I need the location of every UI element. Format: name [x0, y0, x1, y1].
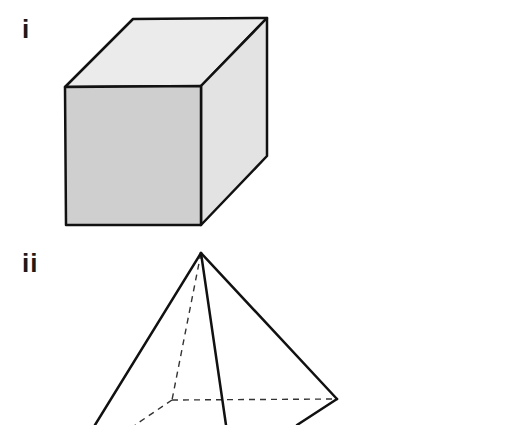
hidden-edge-left-base: [135, 400, 172, 425]
shapes-canvas: [0, 0, 526, 425]
cube-diagram: [65, 18, 267, 225]
geometry-figure: i ii: [0, 0, 526, 425]
edge-apex-front-left: [95, 253, 201, 425]
edge-apex-back-right: [201, 253, 337, 399]
hidden-edge-back-base: [172, 399, 337, 400]
pyramid-hidden-edges: [135, 253, 337, 425]
edge-apex-front-right: [201, 253, 226, 425]
pyramid-diagram: [95, 253, 337, 425]
edge-right-base: [297, 399, 337, 425]
cube-front-face: [65, 86, 201, 225]
